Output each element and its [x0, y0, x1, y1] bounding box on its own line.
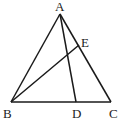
label-c: C [109, 106, 118, 121]
triangle-diagram: A B C D E [0, 0, 127, 122]
label-b: B [3, 106, 12, 121]
segment-be [11, 45, 79, 102]
segment-ab [11, 14, 60, 102]
label-a: A [55, 0, 65, 14]
label-e: E [81, 35, 89, 50]
label-d: D [72, 106, 81, 121]
